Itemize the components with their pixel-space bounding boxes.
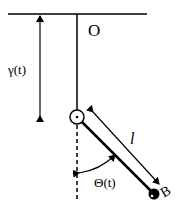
bob-mass [149,189,160,200]
pivot-dot [76,116,79,119]
length-label: l [130,131,134,147]
displacement-label: γ(t) [8,63,26,76]
pendulum-diagram: O γ(t) l Θ(t) B [0,0,183,213]
angle-arc [79,155,115,173]
bob-highlight [151,195,154,198]
pendulum-rod [82,122,151,191]
pivot-label: O [88,22,100,39]
length-arrow [93,112,159,184]
angle-label: Θ(t) [94,176,116,189]
